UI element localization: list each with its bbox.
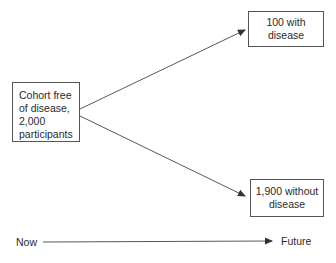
without-disease-box: 1,900 without disease [250, 179, 324, 217]
with-disease-line-1: 100 with [266, 16, 305, 29]
cohort-line-2: of disease, [19, 102, 79, 115]
timeline-arrow [43, 241, 272, 242]
arrow-to-with-disease [80, 30, 245, 109]
with-disease-box: 100 with disease [248, 11, 324, 47]
without-disease-line-1: 1,900 without [256, 185, 318, 198]
with-disease-line-2: disease [268, 29, 304, 42]
cohort-line-3: 2,000 [19, 115, 79, 128]
cohort-line-1: Cohort free [19, 89, 79, 102]
timeline-future-label: Future [281, 235, 311, 247]
arrow-to-without-disease [80, 116, 245, 196]
cohort-line-4: participants [19, 128, 79, 141]
cohort-box: Cohort free of disease, 2,000 participan… [12, 82, 80, 142]
without-disease-line-2: disease [269, 198, 305, 211]
timeline-now-label: Now [16, 236, 37, 248]
